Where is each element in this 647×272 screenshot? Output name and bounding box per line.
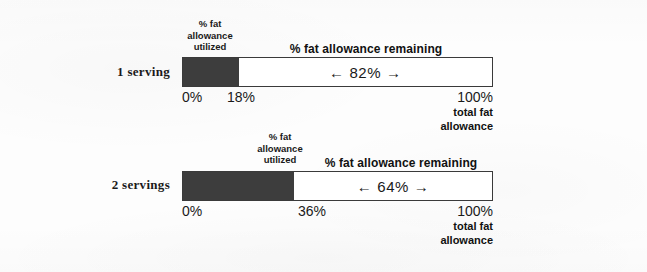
bar-track-1: ← 82% → — [182, 57, 493, 87]
row-label-1-serving: 1 serving — [50, 64, 170, 80]
utilized-caption-line-2: allowance — [160, 30, 260, 42]
bar-segment-remaining-label-2: ← 64% → — [294, 172, 492, 200]
tick-label-mid-1: 18% — [227, 89, 255, 105]
bar-segment-utilized-2 — [183, 172, 294, 200]
utilized-caption-line-2: allowance — [230, 143, 330, 155]
tick-label-mid-2: 36% — [298, 203, 326, 219]
utilized-caption-line-1: % fat — [230, 131, 330, 143]
bar-segment-utilized-1 — [183, 58, 239, 86]
total-note-line-2: allowance — [373, 120, 493, 134]
utilized-caption-line-1: % fat — [160, 18, 260, 30]
tick-label-end-2: 100% — [433, 203, 493, 219]
tick-label-start-1: 0% — [182, 89, 202, 105]
figure-canvas: % fat allowance utilized % fat allowance… — [0, 0, 647, 272]
total-fat-allowance-note-1: total fat allowance — [373, 106, 493, 133]
bar-segment-remaining-label-1: ← 82% → — [239, 58, 492, 86]
total-note-line-1: total fat — [373, 220, 493, 234]
row-label-2-servings: 2 servings — [50, 177, 170, 193]
tick-label-start-2: 0% — [182, 203, 202, 219]
tick-label-end-1: 100% — [433, 89, 493, 105]
total-fat-allowance-note-2: total fat allowance — [373, 220, 493, 247]
total-note-line-1: total fat — [373, 106, 493, 120]
total-note-line-2: allowance — [373, 234, 493, 248]
remaining-caption-2: % fat allowance remaining — [308, 156, 494, 170]
remaining-caption-1: % fat allowance remaining — [238, 42, 494, 56]
bar-track-2: ← 64% → — [182, 171, 493, 201]
